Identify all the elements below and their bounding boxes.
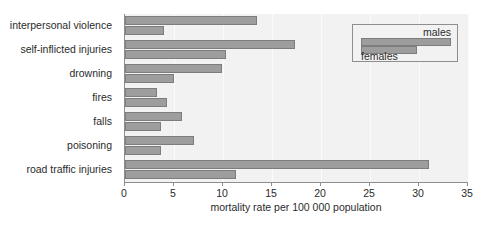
x-tick-mark [418, 182, 419, 186]
category-label: drowning [0, 68, 112, 79]
bar-females [125, 74, 174, 83]
bar-females [125, 50, 226, 59]
bar-group [125, 110, 468, 134]
bar-group [125, 86, 468, 110]
x-tick-mark [467, 182, 468, 186]
bar-chart: interpersonal violenceself-inflicted inj… [0, 0, 493, 226]
gridline [468, 14, 469, 182]
bar-males [125, 160, 429, 169]
category-label: poisoning [0, 140, 112, 151]
x-tick-label: 15 [256, 187, 286, 199]
bar-males [125, 136, 194, 145]
category-label: fires [0, 92, 112, 103]
chart-legend: males females [352, 24, 458, 62]
x-tick-mark [222, 182, 223, 186]
x-tick-label: 0 [109, 187, 139, 199]
bar-males [125, 40, 295, 49]
category-label: road traffic injuries [0, 164, 112, 175]
x-tick-mark [124, 182, 125, 186]
bar-males [125, 88, 157, 97]
category-axis: interpersonal violenceself-inflicted inj… [0, 14, 117, 182]
legend-label-males: males [423, 26, 451, 38]
x-tick-mark [369, 182, 370, 186]
x-tick-label: 5 [158, 187, 188, 199]
bar-males [125, 112, 182, 121]
bar-females [125, 26, 164, 35]
legend-label-females: females [361, 50, 398, 62]
bar-group [125, 158, 468, 182]
bar-females [125, 122, 161, 131]
bar-males [125, 64, 222, 73]
bar-males [125, 16, 257, 25]
x-axis-title: mortality rate per 100 000 population [124, 201, 468, 213]
x-tick-label: 35 [452, 187, 482, 199]
x-tick-label: 10 [207, 187, 237, 199]
bar-females [125, 98, 167, 107]
x-tick-label: 25 [354, 187, 384, 199]
legend-swatch-males [361, 38, 451, 46]
x-tick-label: 20 [305, 187, 335, 199]
category-label: falls [0, 116, 112, 127]
category-label: self-inflicted injuries [0, 44, 112, 55]
x-tick-mark [320, 182, 321, 186]
category-label: interpersonal violence [0, 20, 112, 31]
x-tick-mark [173, 182, 174, 186]
bar-group [125, 62, 468, 86]
bar-group [125, 134, 468, 158]
x-tick-mark [271, 182, 272, 186]
bar-females [125, 146, 161, 155]
x-tick-label: 30 [403, 187, 433, 199]
x-axis-line [124, 182, 468, 183]
bar-females [125, 170, 236, 179]
